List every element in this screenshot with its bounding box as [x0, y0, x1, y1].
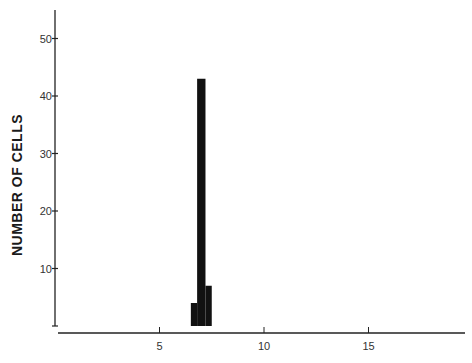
- histogram-bars: [191, 79, 212, 326]
- y-tick-label: 20: [40, 205, 52, 217]
- histogram-bar: [191, 303, 197, 326]
- y-axis-title: NUMBER OF CELLS: [9, 114, 25, 256]
- y-tick-label: 30: [40, 148, 52, 160]
- y-tick-label: 10: [40, 263, 52, 275]
- y-tick-label: 50: [40, 33, 52, 45]
- y-axis: 1020304050: [40, 10, 58, 326]
- x-tick-label: 5: [156, 340, 162, 352]
- x-tick-label: 10: [258, 340, 270, 352]
- y-tick-label: 40: [40, 90, 52, 102]
- x-axis: 51015: [58, 327, 465, 352]
- x-tick-label: 15: [362, 340, 374, 352]
- histogram-bar: [205, 286, 211, 326]
- histogram-bar: [197, 79, 205, 326]
- histogram-chart: 1020304050 51015 NUMBER OF CELLS: [0, 0, 472, 363]
